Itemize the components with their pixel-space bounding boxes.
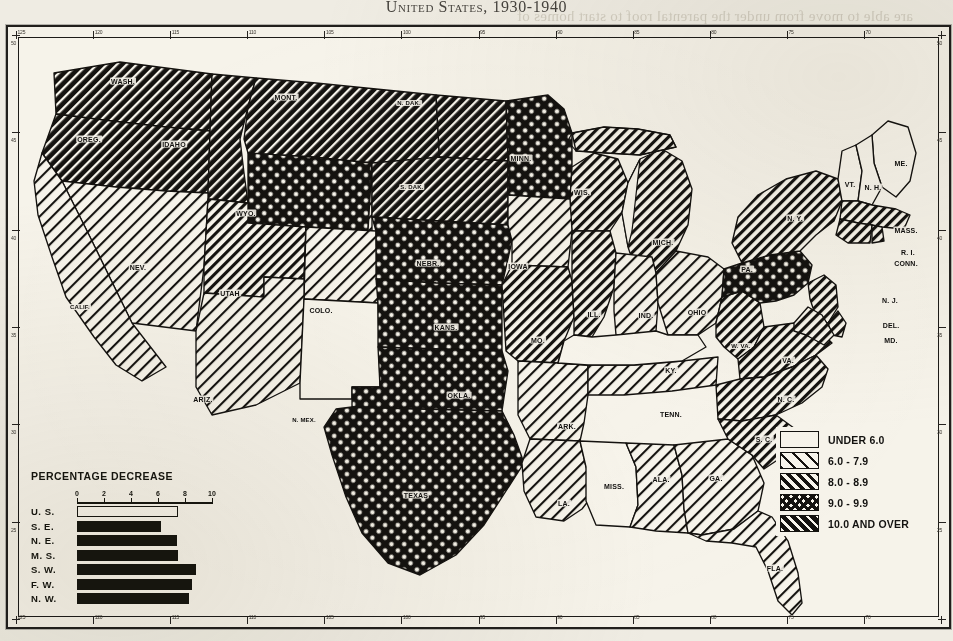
state-label-wva: W. VA. bbox=[730, 343, 751, 349]
state-label-ny: N. Y. bbox=[786, 215, 804, 222]
x-axis-tick-label: 8 bbox=[183, 490, 187, 497]
bar-track bbox=[77, 550, 212, 561]
ruler-tick-label: 25 bbox=[937, 527, 942, 533]
ruler-tick bbox=[938, 619, 946, 620]
state-label-wyo: WYO. bbox=[235, 210, 256, 217]
ruler-tick bbox=[938, 35, 946, 36]
x-axis-tick-label: 10 bbox=[208, 490, 216, 497]
legend-label: UNDER 6.0 bbox=[828, 434, 885, 446]
legend-row: UNDER 6.0 bbox=[780, 431, 909, 448]
bar-chart-rows: U. S.S. E.N. E.M. S.S. W.F. W.N. W. bbox=[31, 505, 212, 605]
bar-se bbox=[77, 521, 161, 532]
ruler-right: 504540353025 bbox=[936, 35, 947, 619]
state-label-ri: R. I. bbox=[900, 249, 916, 256]
bar-sw bbox=[77, 564, 196, 575]
state-label-utah: UTAH bbox=[219, 290, 241, 297]
legend-label: 9.0 - 9.9 bbox=[828, 497, 868, 509]
ruler-tick-label: 40 bbox=[937, 235, 942, 241]
bar-category-label: M. S. bbox=[31, 550, 77, 561]
state-label-nc: N. C. bbox=[777, 396, 796, 403]
bar-category-label: U. S. bbox=[31, 506, 77, 517]
state-label-ohio: OHIO bbox=[687, 309, 708, 316]
state-wy bbox=[248, 153, 372, 231]
axis-line bbox=[77, 502, 212, 504]
map-legend: UNDER 6.06.0 - 7.98.0 - 8.99.0 - 9.910.0… bbox=[776, 427, 915, 536]
state-label-idaho: IDAHO bbox=[161, 141, 187, 148]
state-label-mass: MASS. bbox=[893, 227, 918, 234]
bar-chart-row: N. E. bbox=[31, 534, 212, 547]
legend-label: 8.0 - 8.9 bbox=[828, 476, 868, 488]
x-axis-tick bbox=[158, 498, 159, 504]
ruler-tick-label: 30 bbox=[937, 429, 942, 435]
state-nd bbox=[436, 95, 508, 167]
legend-label: 10.0 AND OVER bbox=[828, 518, 909, 530]
state-label-texas: TEXAS bbox=[403, 492, 429, 499]
bar-track bbox=[77, 579, 212, 590]
state-label-miss: MISS. bbox=[603, 483, 625, 490]
x-axis-tick-label: 4 bbox=[129, 490, 133, 497]
state-label-pa: PA. bbox=[740, 266, 754, 273]
legend-swatch-hatch-medium bbox=[780, 473, 819, 490]
state-label-nj: N. J. bbox=[881, 297, 899, 304]
x-axis-tick bbox=[131, 498, 132, 504]
ruler-bottom: 125120115110105100959085807570 bbox=[16, 614, 941, 625]
bar-nw bbox=[77, 593, 189, 604]
state-label-kans: KANS. bbox=[434, 324, 459, 331]
state-label-conn: CONN. bbox=[893, 260, 919, 267]
bar-chart-row: U. S. bbox=[31, 505, 212, 518]
state-label-va: VA. bbox=[781, 357, 795, 364]
state-label-calif: CALIF. bbox=[69, 304, 91, 310]
page-title: United States, 1930-1940 bbox=[0, 0, 953, 16]
state-label-ndak: N. DAK. bbox=[396, 100, 422, 106]
legend-swatch-hatch-dense bbox=[780, 515, 819, 532]
bar-chart-row: N. W. bbox=[31, 592, 212, 605]
ruler-tick bbox=[938, 132, 946, 133]
state-label-iowa: IOWA bbox=[507, 263, 528, 270]
x-axis-tick bbox=[212, 498, 213, 504]
bar-chart-row: M. S. bbox=[31, 549, 212, 562]
bar-chart-title: PERCENTAGE DECREASE bbox=[31, 470, 212, 482]
state-ky bbox=[558, 331, 706, 365]
state-mt bbox=[244, 78, 440, 167]
state-label-minn: MINN. bbox=[510, 155, 533, 162]
state-label-me: ME. bbox=[893, 160, 908, 167]
state-ar bbox=[518, 361, 588, 441]
bar-fw bbox=[77, 579, 192, 590]
bar-chart-row: S. W. bbox=[31, 563, 212, 576]
x-axis-tick bbox=[185, 498, 186, 504]
state-in bbox=[614, 253, 658, 335]
state-label-ga: GA. bbox=[708, 475, 723, 482]
legend-row: 6.0 - 7.9 bbox=[780, 452, 909, 469]
bar-track bbox=[77, 535, 212, 546]
state-label-mich: MICH. bbox=[652, 239, 675, 246]
state-label-colo: COLO. bbox=[308, 307, 333, 314]
bar-chart-row: F. W. bbox=[31, 578, 212, 591]
state-nm bbox=[300, 299, 380, 399]
state-label-nev: NEV. bbox=[129, 264, 148, 271]
state-label-tenn: TENN. bbox=[659, 411, 683, 418]
bar-chart-x-axis: 0246810 bbox=[77, 491, 212, 504]
state-label-nh: N. H. bbox=[864, 184, 883, 191]
bar-category-label: N. W. bbox=[31, 593, 77, 604]
state-ia bbox=[508, 195, 572, 267]
state-label-ala: ALA. bbox=[651, 476, 670, 483]
state-mn bbox=[506, 95, 572, 199]
ruler-tick bbox=[938, 424, 946, 425]
ruler-tick-label: 35 bbox=[937, 332, 942, 338]
legend-swatch-blank bbox=[780, 431, 819, 448]
state-label-fla: FLA. bbox=[766, 565, 784, 572]
ruler-tick-label: 45 bbox=[937, 137, 942, 143]
state-label-ariz: ARIZ. bbox=[192, 396, 213, 403]
state-ne bbox=[372, 217, 512, 285]
state-label-vt: VT. bbox=[844, 181, 857, 188]
bar-track bbox=[77, 521, 212, 532]
state-label-nebr: NEBR. bbox=[416, 260, 441, 267]
state-label-okla: OKLA. bbox=[447, 392, 472, 399]
state-label-ind: IND. bbox=[638, 312, 655, 319]
state-label-la: LA. bbox=[557, 500, 571, 507]
state-label-sc: S. C. bbox=[755, 436, 774, 443]
x-axis-tick bbox=[77, 498, 78, 504]
ruler-tick bbox=[12, 619, 20, 620]
x-axis-tick-label: 6 bbox=[156, 490, 160, 497]
state-il bbox=[572, 231, 616, 337]
